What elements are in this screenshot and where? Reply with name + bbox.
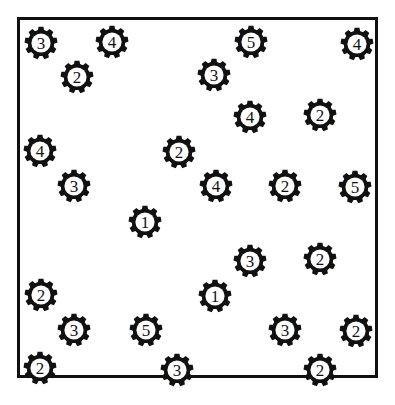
gear-label: 2 <box>316 250 325 269</box>
gear-label: 4 <box>36 142 45 161</box>
gear-label: 3 <box>70 177 79 196</box>
gear-icon[interactable]: 3 <box>197 58 231 92</box>
gear-icon[interactable]: 3 <box>24 26 58 60</box>
gear-label: 5 <box>142 321 151 340</box>
gear-icon[interactable]: 5 <box>129 313 163 347</box>
gear-icon[interactable]: 2 <box>303 353 337 387</box>
gear-label: 3 <box>281 321 290 340</box>
gear-icon[interactable]: 3 <box>233 244 267 278</box>
gear-label: 2 <box>175 143 184 162</box>
gear-icon[interactable]: 4 <box>23 134 57 168</box>
gear-label: 5 <box>351 178 360 197</box>
gear-label: 2 <box>281 177 290 196</box>
gear-icon[interactable]: 4 <box>233 100 267 134</box>
gear-label: 4 <box>353 35 362 54</box>
gear-icon[interactable]: 5 <box>338 170 372 204</box>
gear-icon[interactable]: 3 <box>57 313 91 347</box>
gear-icon[interactable]: 2 <box>303 242 337 276</box>
gear-label: 3 <box>70 321 79 340</box>
gear-label: 3 <box>246 252 255 271</box>
gear-icon[interactable]: 3 <box>160 353 194 387</box>
diagram-canvas: RESULTS 34542342423425132213532232 <box>0 0 395 405</box>
gear-icon[interactable]: 2 <box>339 314 373 348</box>
gear-icon[interactable]: 2 <box>60 60 94 94</box>
gear-label: 4 <box>212 177 221 196</box>
gear-label: 3 <box>210 66 219 85</box>
gear-label: 1 <box>141 213 150 232</box>
gear-icon[interactable]: 3 <box>268 313 302 347</box>
gear-icon[interactable]: 1 <box>198 279 232 313</box>
gear-label: 1 <box>211 287 220 306</box>
gear-icon[interactable]: 4 <box>340 27 374 61</box>
gear-icon[interactable]: 5 <box>234 25 268 59</box>
gear-label: 3 <box>173 361 182 380</box>
gear-label: 5 <box>247 33 256 52</box>
gear-label: 2 <box>36 359 45 378</box>
gear-icon[interactable]: 1 <box>128 205 162 239</box>
gear-icon[interactable]: 3 <box>57 169 91 203</box>
gear-label: 3 <box>37 34 46 53</box>
gear-icon[interactable]: 2 <box>24 278 58 312</box>
gear-label: 4 <box>246 108 255 127</box>
gear-label: 2 <box>73 68 82 87</box>
gear-label: 2 <box>316 106 325 125</box>
gear-label: 2 <box>37 286 46 305</box>
gear-icon[interactable]: 2 <box>303 98 337 132</box>
gear-icon[interactable]: 4 <box>95 25 129 59</box>
gear-icon[interactable]: 2 <box>162 135 196 169</box>
gear-label: 4 <box>108 33 117 52</box>
gear-label: 2 <box>316 361 325 380</box>
gear-icon[interactable]: 2 <box>268 169 302 203</box>
gear-label: 2 <box>352 322 361 341</box>
gear-icon[interactable]: 2 <box>23 351 57 385</box>
gear-icon[interactable]: 4 <box>199 169 233 203</box>
